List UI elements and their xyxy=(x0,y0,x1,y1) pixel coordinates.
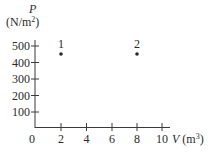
y-tick-label-100: 100 xyxy=(12,106,30,118)
x-axis-unit-text: (m xyxy=(182,132,195,146)
point-label-2: 2 xyxy=(131,38,143,50)
data-point-2 xyxy=(135,52,139,56)
y-tick-label-200: 200 xyxy=(12,90,30,102)
y-tick-label-400: 400 xyxy=(12,57,30,69)
y-axis-unit-close: ) xyxy=(35,15,39,29)
x-tick-label-4: 4 xyxy=(77,133,97,145)
y-axis-unit-text: (N/m xyxy=(6,15,31,29)
y-axis-symbol: P xyxy=(29,3,36,15)
point-label-1: 1 xyxy=(55,38,67,50)
x-axis-symbol: V xyxy=(172,132,179,146)
x-tick-label-10: 10 xyxy=(152,133,172,145)
x-tick-label-6: 6 xyxy=(102,133,122,145)
x-tick-label-2: 2 xyxy=(51,133,71,145)
data-point-1 xyxy=(59,52,63,56)
x-axis-unit-close: ) xyxy=(200,132,204,146)
x-tick-label-8: 8 xyxy=(127,133,147,145)
y-axis-unit: (N/m2) xyxy=(6,16,39,28)
x-tick-label-0: 0 xyxy=(22,133,42,145)
y-tick-label-300: 300 xyxy=(12,73,30,85)
y-tick-label-500: 500 xyxy=(12,40,30,52)
x-axis-label: V (m3) xyxy=(172,133,204,145)
